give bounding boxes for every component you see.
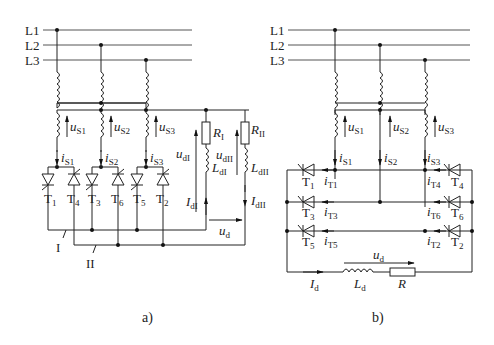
label-us2-b: uS2 — [393, 119, 409, 136]
label-t2-b: T2 — [451, 234, 463, 251]
label-ud1: udI — [176, 146, 190, 163]
panel-a: L1 L2 L3 uS1 uS2 — [25, 23, 269, 326]
label-t1-b: T1 — [302, 174, 314, 191]
label-r-b: R — [397, 276, 406, 291]
line-label-l2: L2 — [25, 38, 39, 53]
label-t6: T6 — [111, 191, 124, 208]
inductor-ld2 — [245, 144, 248, 192]
resistor-r1 — [202, 122, 210, 144]
label-ud-b: ud — [373, 247, 385, 264]
line-label-l3: L3 — [25, 53, 39, 68]
label-it6: iT6 — [427, 204, 441, 221]
label-is3: iS3 — [150, 150, 164, 167]
group-label-i: I — [56, 240, 60, 255]
label-t6-b: T6 — [451, 205, 464, 222]
label-t4: T4 — [67, 191, 80, 208]
label-ld-b: Ld — [353, 276, 366, 293]
label-ld2: LdII — [250, 160, 269, 177]
label-it3: iT3 — [324, 204, 338, 221]
label-us2: uS2 — [114, 119, 130, 136]
label-r2: RII — [250, 122, 265, 139]
label-r1: RI — [212, 125, 224, 142]
label-it4: iT4 — [427, 173, 441, 190]
group-label-ii: II — [86, 256, 95, 271]
label-ud: ud — [219, 223, 231, 240]
label-is2-b: iS2 — [384, 150, 397, 167]
line-label-l2-b: L2 — [270, 38, 284, 53]
label-id2: IdII — [250, 193, 266, 210]
thyristor-bank-a — [42, 165, 169, 245]
label-t1: T1 — [44, 191, 56, 208]
line-label-l3-b: L3 — [270, 53, 284, 68]
label-it5: iT5 — [324, 233, 338, 250]
label-is3-b: iS3 — [427, 150, 441, 167]
caption-a: a) — [142, 310, 153, 326]
label-it2: iT2 — [427, 233, 441, 250]
label-is2: iS2 — [105, 150, 118, 167]
label-it1: iT1 — [324, 173, 338, 190]
label-us1-b: uS1 — [348, 119, 364, 136]
label-ud2: udII — [216, 147, 233, 164]
line-label-l1-b: L1 — [270, 23, 284, 38]
resistor-r — [390, 268, 415, 276]
circuit-diagram: L1 L2 L3 uS1 uS2 — [0, 0, 494, 345]
line-label-l1: L1 — [25, 23, 39, 38]
label-is1: iS1 — [61, 150, 74, 167]
resistor-r2 — [241, 122, 249, 144]
label-id-b: Id — [309, 276, 319, 293]
label-us3: uS3 — [159, 119, 176, 136]
inductor-ld — [343, 269, 373, 272]
label-t5: T5 — [133, 191, 146, 208]
panel-b: L1 L2 L3 uS1 uS2 uS3 iS1 iS2 iS3 — [270, 23, 474, 326]
label-is1-b: iS1 — [339, 150, 352, 167]
label-us1: uS1 — [70, 119, 86, 136]
label-us3-b: uS3 — [438, 119, 455, 136]
label-t2: T2 — [156, 191, 168, 208]
caption-b: b) — [372, 310, 384, 326]
label-t4-b: T4 — [451, 174, 464, 191]
label-t3: T3 — [88, 191, 101, 208]
